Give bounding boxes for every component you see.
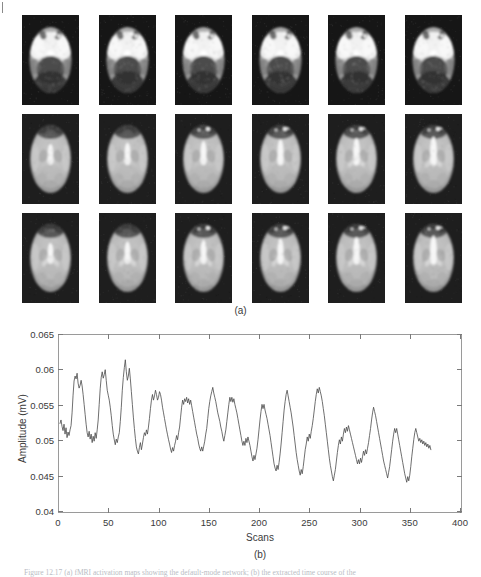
- brain-slice: [175, 213, 232, 303]
- x-tick-mark: [209, 508, 210, 513]
- x-tick-label: 200: [239, 517, 279, 528]
- y-tick-label: 0.045: [30, 470, 54, 481]
- x-tick-mark: [460, 334, 461, 339]
- y-tick-mark: [457, 476, 462, 477]
- y-tick-mark: [457, 440, 462, 441]
- y-tick-label: 0.055: [30, 399, 54, 410]
- bold-signal-line: [60, 360, 431, 482]
- x-tick-mark: [309, 508, 310, 513]
- x-tick-mark: [360, 334, 361, 339]
- signal-plot-svg: [59, 335, 461, 512]
- brain-slice: [252, 15, 309, 105]
- x-tick-mark: [410, 334, 411, 339]
- panel-b-label: (b): [58, 549, 462, 560]
- brain-slice: [252, 213, 309, 303]
- brain-slice: [405, 114, 462, 204]
- y-tick-mark: [58, 511, 63, 512]
- brain-slice: [328, 15, 385, 105]
- x-tick-label: 350: [390, 517, 430, 528]
- brain-slice: [99, 213, 156, 303]
- y-tick-mark: [58, 334, 63, 335]
- x-tick-mark: [259, 508, 260, 513]
- y-axis-title: Amplitude (mV): [17, 369, 28, 489]
- y-tick-label: 0.05: [36, 435, 55, 446]
- brain-slice: [99, 114, 156, 204]
- y-tick-mark: [58, 369, 63, 370]
- x-tick-label: 300: [340, 517, 380, 528]
- brain-slice: [22, 213, 79, 303]
- x-tick-mark: [108, 508, 109, 513]
- brain-slice: [405, 213, 462, 303]
- panel-a-label: (a): [0, 305, 481, 316]
- x-tick-mark: [410, 508, 411, 513]
- x-tick-mark: [209, 334, 210, 339]
- x-tick-label: 250: [289, 517, 329, 528]
- brain-slice: [328, 213, 385, 303]
- x-tick-mark: [360, 508, 361, 513]
- x-tick-label: 150: [189, 517, 229, 528]
- y-tick-label: 0.04: [36, 506, 55, 517]
- x-tick-label: 400: [440, 517, 480, 528]
- y-tick-label: 0.06: [36, 364, 55, 375]
- brain-slice: [22, 114, 79, 204]
- y-tick-mark: [457, 405, 462, 406]
- x-tick-mark: [159, 508, 160, 513]
- x-tick-mark: [309, 334, 310, 339]
- brain-slice-row: [22, 213, 462, 303]
- x-tick-label: 100: [139, 517, 179, 528]
- brain-slice-montage: (a): [0, 0, 481, 310]
- y-tick-label: 0.065: [30, 329, 54, 340]
- plot-area: [58, 334, 462, 513]
- x-axis-title: Scans: [58, 532, 462, 543]
- figure-caption: Figure 12.17 (a) fMRI activation maps sh…: [24, 568, 460, 577]
- brain-slice-row: [22, 15, 462, 105]
- x-tick-mark: [108, 334, 109, 339]
- timeseries-chart-panel: Amplitude (mV) 0.040.0450.050.0550.060.0…: [0, 318, 481, 577]
- brain-slice: [252, 114, 309, 204]
- x-tick-mark: [159, 334, 160, 339]
- x-tick-label: 50: [88, 517, 128, 528]
- y-tick-mark: [58, 476, 63, 477]
- y-tick-mark: [58, 440, 63, 441]
- y-tick-mark: [58, 405, 63, 406]
- x-tick-mark: [259, 334, 260, 339]
- y-tick-mark: [457, 369, 462, 370]
- brain-slice: [175, 15, 232, 105]
- brain-slice-row: [22, 114, 462, 204]
- brain-slice: [22, 15, 79, 105]
- x-tick-mark: [460, 508, 461, 513]
- x-tick-label: 0: [38, 517, 78, 528]
- brain-slice: [405, 15, 462, 105]
- brain-slice: [328, 114, 385, 204]
- brain-slice: [175, 114, 232, 204]
- brain-slice: [99, 15, 156, 105]
